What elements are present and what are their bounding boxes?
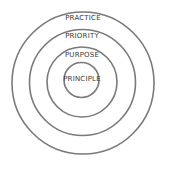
concentric-circles-diagram: [0, 0, 170, 171]
label-purpose: PURPOSE: [65, 52, 99, 59]
label-practice: PRACTICE: [65, 15, 101, 22]
label-principle: PRINCIPLE: [63, 76, 101, 83]
label-priority: PRIORITY: [65, 33, 99, 40]
